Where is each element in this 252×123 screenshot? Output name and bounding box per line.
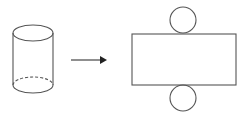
net-bottom-circle [170,85,196,111]
net-rectangle [132,34,236,85]
cylinder-net-diagram [0,0,252,123]
cylinder-bottom-back-arc [13,77,53,85]
net-top-circle [170,7,196,33]
cylinder [13,25,53,93]
cylinder-top-ellipse [13,25,53,41]
cylinder-net [132,7,236,111]
cylinder-bottom-front-arc [13,85,53,93]
arrow-icon [71,56,107,64]
